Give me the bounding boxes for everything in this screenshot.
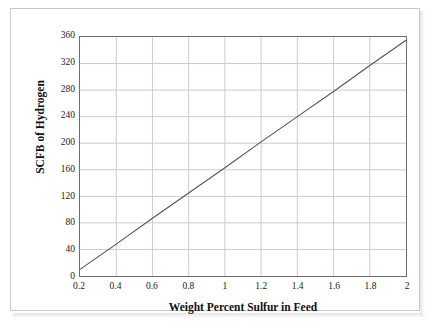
x-tick-label: 0.6: [132, 282, 172, 292]
x-axis-title: Weight Percent Sulfur in Feed: [79, 301, 407, 313]
x-tick-label: 1.6: [314, 282, 354, 292]
x-tick-label: 1: [205, 282, 245, 292]
x-tick-label: 0.8: [168, 282, 208, 292]
x-tick-label: 1.2: [241, 282, 281, 292]
plot-area: [79, 36, 407, 277]
chart-figure: 04080120160200240280320360 0.20.40.60.81…: [10, 8, 420, 311]
y-tick-label: 0: [35, 272, 75, 282]
x-tick-label: 2: [387, 282, 427, 292]
data-series-line: [80, 37, 406, 276]
y-tick-label: 40: [35, 245, 75, 255]
x-tick-label: 1.4: [278, 282, 318, 292]
x-tick-label: 0.4: [95, 282, 135, 292]
y-axis-title: SCFB of Hydrogen: [34, 27, 46, 227]
figure-shadow-bottom: [13, 313, 425, 318]
x-tick-label: 1.8: [351, 282, 391, 292]
x-axis-tick-labels: 0.20.40.60.811.21.41.61.82: [79, 282, 407, 296]
figure-shadow-right: [420, 11, 425, 316]
x-tick-label: 0.2: [59, 282, 99, 292]
